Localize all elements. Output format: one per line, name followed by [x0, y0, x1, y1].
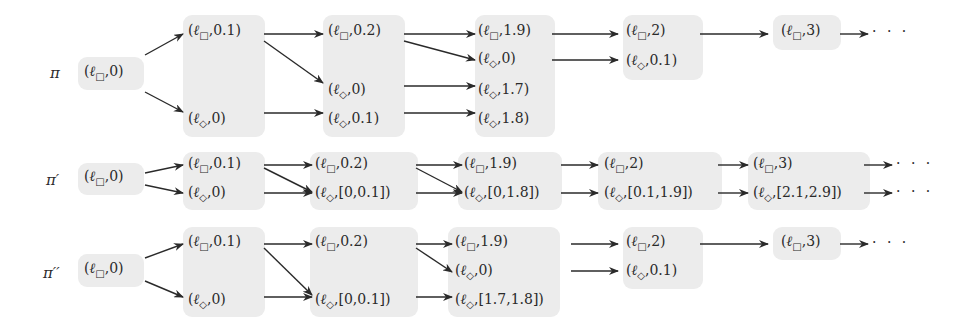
- state-node: (ℓ□,3): [781, 233, 821, 255]
- state-node: (ℓ□,3): [753, 155, 793, 177]
- state-node: (ℓ◇,0): [328, 81, 366, 103]
- state-node: (ℓ□,0.2): [328, 22, 381, 44]
- continuation-ellipsis: · · ·: [896, 183, 933, 199]
- continuation-ellipsis: · · ·: [896, 155, 933, 171]
- row-label-pi-double-prime: π′′: [43, 264, 60, 282]
- state-node: (ℓ□,2): [626, 233, 666, 255]
- state-node: (ℓ◇,0): [455, 262, 493, 284]
- state-node: (ℓ◇,0): [478, 50, 516, 72]
- row-label-pi: π: [50, 64, 60, 82]
- run-diagram: π π′ π′′ (ℓ□,0) (ℓ□,0.1) (ℓ◇,0) (ℓ□,0.2)…: [0, 0, 960, 335]
- state-node: (ℓ◇,[0,0.1]): [315, 291, 390, 313]
- state-node: (ℓ◇,[0,1.8]): [464, 184, 539, 206]
- continuation-ellipsis: · · ·: [872, 234, 909, 250]
- state-node: (ℓ◇,[1.7,1.8]): [455, 291, 544, 313]
- state-node: (ℓ□,0.2): [315, 233, 368, 255]
- state-node: (ℓ◇,[0.1,1.9]): [604, 184, 693, 206]
- state-node: (ℓ◇,0): [188, 110, 226, 132]
- state-node: (ℓ◇,1.7): [478, 81, 529, 103]
- state-node: (ℓ□,0): [84, 260, 124, 282]
- state-node: (ℓ□,3): [781, 22, 821, 44]
- state-node: (ℓ◇,0.1): [626, 262, 677, 284]
- state-node: (ℓ□,1.9): [464, 155, 517, 177]
- state-node: (ℓ□,0.1): [188, 155, 241, 177]
- state-node: (ℓ◇,1.8): [478, 110, 529, 132]
- state-node: (ℓ□,0): [84, 63, 124, 85]
- state-node: (ℓ◇,0.1): [626, 52, 677, 74]
- state-node: (ℓ□,2): [626, 22, 666, 44]
- state-node: (ℓ◇,0.1): [328, 110, 379, 132]
- state-node: (ℓ□,0.1): [188, 22, 241, 44]
- state-node: (ℓ□,1.9): [478, 22, 531, 44]
- state-node: (ℓ□,2): [604, 155, 644, 177]
- state-node: (ℓ◇,[0,0.1]): [315, 184, 390, 206]
- state-node: (ℓ□,0.2): [315, 155, 368, 177]
- state-node: (ℓ□,0): [84, 168, 124, 190]
- continuation-ellipsis: · · ·: [872, 23, 909, 39]
- state-node: (ℓ◇,0): [188, 184, 226, 206]
- state-node: (ℓ◇,[2.1,2.9]): [753, 184, 842, 206]
- row-label-pi-prime: π′: [46, 171, 59, 189]
- state-node: (ℓ□,1.9): [455, 233, 508, 255]
- state-node: (ℓ□,0.1): [188, 233, 241, 255]
- state-node: (ℓ◇,0): [188, 291, 226, 313]
